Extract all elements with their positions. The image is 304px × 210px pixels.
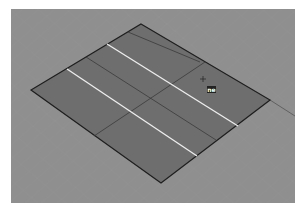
scene-canvas — [11, 9, 295, 203]
cursor-tag-icon: ne — [207, 86, 216, 93]
3d-viewport[interactable]: ne — [11, 9, 295, 203]
